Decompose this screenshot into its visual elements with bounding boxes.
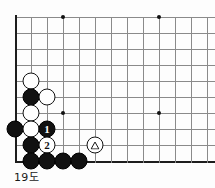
- star-point: [61, 15, 65, 19]
- grid-line-vertical: [191, 17, 192, 163]
- grid-line-vertical: [63, 17, 64, 163]
- move-number: 2: [44, 140, 50, 151]
- grid-line-vertical: [159, 17, 160, 163]
- grid-line-horizontal: [15, 65, 215, 66]
- black-stone[interactable]: [7, 121, 24, 138]
- move-stone-2[interactable]: 2: [39, 137, 56, 154]
- marked-stone-triangle[interactable]: [87, 137, 104, 154]
- star-point: [157, 15, 161, 19]
- white-stone[interactable]: [23, 105, 40, 122]
- black-stone[interactable]: [23, 89, 40, 106]
- grid-line-vertical: [111, 17, 112, 163]
- grid-line-horizontal: [15, 81, 215, 82]
- go-diagram-figure: 12 19도: [0, 0, 215, 188]
- grid-line-vertical: [207, 17, 208, 163]
- grid-line-vertical: [143, 17, 144, 163]
- star-point: [61, 111, 65, 115]
- black-stone[interactable]: [39, 153, 56, 170]
- black-stone[interactable]: [23, 137, 40, 154]
- move-stone-1[interactable]: 1: [39, 121, 56, 138]
- white-stone[interactable]: [23, 73, 40, 90]
- grid-line-vertical: [79, 17, 80, 163]
- black-stone[interactable]: [23, 153, 40, 170]
- grid-line-horizontal: [15, 33, 215, 34]
- move-number: 1: [44, 124, 50, 135]
- white-stone[interactable]: [23, 121, 40, 138]
- go-board[interactable]: 12: [0, 0, 215, 165]
- white-stone[interactable]: [39, 89, 56, 106]
- triangle-icon: [91, 141, 100, 149]
- grid-line-horizontal: [15, 49, 215, 50]
- star-point: [157, 111, 161, 115]
- grid-line-horizontal: [15, 113, 215, 114]
- grid-line-horizontal: [15, 17, 215, 18]
- grid-line-vertical: [175, 17, 176, 163]
- black-stone[interactable]: [71, 153, 88, 170]
- figure-caption: 19도: [14, 168, 39, 184]
- grid-line-vertical: [15, 15, 17, 163]
- grid-line-vertical: [127, 17, 128, 163]
- black-stone[interactable]: [55, 153, 72, 170]
